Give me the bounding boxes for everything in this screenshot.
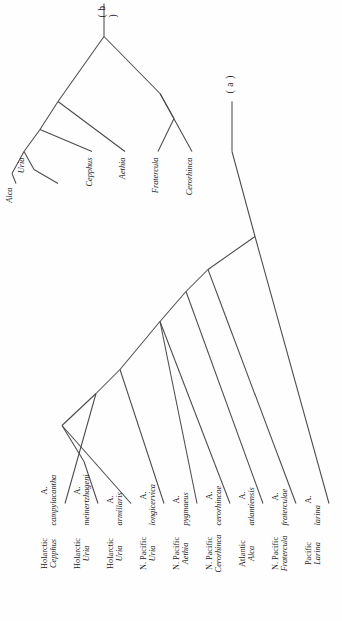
tip-label-b-5: Alca (6, 187, 15, 235)
tip-species-a-3: A. cerorhincae (206, 425, 224, 525)
species-epithet: longicervica (149, 425, 158, 525)
tip-label-a-4: N. Pacific Aethia (173, 521, 191, 585)
tip-host-genus: Cerorhinca (215, 521, 224, 585)
species-epithet: campylacantha (50, 415, 59, 525)
species-epithet: larina (314, 425, 323, 525)
tip-species-a-0: A. larina (305, 425, 323, 525)
tip-species-a-8: A. campylacantha (41, 415, 59, 525)
cladogram-figure: Pacific Larina N. Pacific Fratercula Atl… (0, 0, 342, 621)
tip-species-a-7: A. meinertzhageni (74, 415, 92, 525)
tip-label-a-3: N. Pacific Cerorhinca (206, 521, 224, 585)
tip-host-genus: Cepphus (50, 521, 59, 585)
tip-label-a-2: Atlantic Alca (239, 521, 257, 585)
tip-label-a-7: Holarctic Uria (74, 521, 92, 585)
tip-label-b-2: Aethia (119, 157, 128, 221)
figure-page: Pacific Larina N. Pacific Fratercula Atl… (0, 0, 342, 621)
tip-host-genus: Uria (149, 521, 158, 585)
species-epithet: pygmaeus (182, 425, 191, 525)
tip-label-b-0: Cerorhinca (186, 157, 195, 221)
tip-species-a-4: A. pygmaeus (173, 425, 191, 525)
tip-species-a-2: A. atlantiensis (239, 425, 257, 525)
species-epithet: fraterculae (281, 425, 290, 525)
panel-label-b: ( b ) (96, 0, 118, 17)
tip-species-a-6: A. armillaris (107, 425, 125, 525)
tip-host-genus: Aethia (182, 521, 191, 585)
species-epithet: cerorhincae (215, 425, 224, 525)
tip-host-genus: Larina (314, 521, 323, 585)
tip-host-genus: Uria (116, 521, 125, 585)
tip-label-b-3: Cepphus (86, 157, 95, 221)
tip-label-a-8: Holarctic Cepphus (41, 521, 59, 585)
tip-host-genus: Alca (248, 521, 257, 585)
tip-host-genus: Uria (83, 521, 92, 585)
tip-species-a-1: A. fraterculae (272, 425, 290, 525)
tip-label-a-5: N. Pacific Uria (140, 521, 158, 585)
species-epithet: atlantiensis (248, 425, 257, 525)
tip-species-a-5: A. longicervica (140, 425, 158, 525)
tip-label-a-6: Holarctic Uria (107, 521, 125, 585)
tip-label-a-1: N. Pacific Fratercula (272, 521, 290, 585)
panel-label-a: ( a ) (224, 75, 235, 93)
tip-label-b-4: Uria (18, 157, 27, 221)
tip-host-genus: Fratercula (281, 521, 290, 585)
tip-label-a-0: Pacific Larina (305, 521, 323, 585)
species-epithet: armillaris (116, 425, 125, 525)
species-epithet: meinertzhageni (83, 415, 92, 525)
tip-label-b-1: Fratercula (152, 157, 161, 221)
